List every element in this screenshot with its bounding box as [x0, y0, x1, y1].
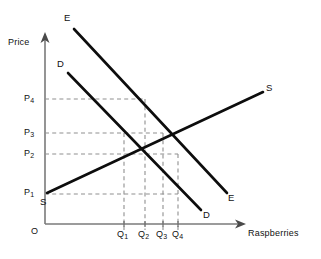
curve-label-s-bottom: S — [40, 196, 47, 207]
y-axis-title: Price — [8, 37, 30, 47]
quantity-tick-q4: Q4 — [172, 229, 183, 240]
price-tick-p4-sub: 4 — [30, 97, 34, 104]
curve-label-e-top: E — [64, 12, 71, 23]
quantity-tick-q1-sub: 1 — [124, 233, 128, 240]
x-axis-title: Raspberries — [248, 228, 299, 238]
quantity-tick-q4-sub: 4 — [179, 233, 183, 240]
quantity-tick-q3: Q3 — [156, 229, 167, 240]
plot-canvas — [0, 0, 321, 259]
quantity-tick-q2-sub: 2 — [145, 233, 149, 240]
price-tick-p1-sub: 1 — [30, 191, 34, 198]
supply-demand-diagram: Price Raspberries O E E D D S S P4 P3 P2… — [0, 0, 321, 259]
curve-label-s-top: S — [266, 82, 273, 93]
curve-label-d-top: D — [57, 58, 64, 69]
price-tick-p2: P2 — [24, 148, 34, 159]
origin-label: O — [31, 226, 38, 236]
curves — [47, 29, 263, 210]
quantity-tick-q1: Q1 — [117, 229, 128, 240]
price-tick-p3: P3 — [24, 127, 34, 138]
supply-curve-S — [47, 92, 263, 193]
quantity-tick-q3-sub: 3 — [163, 233, 167, 240]
price-tick-p1: P1 — [24, 187, 34, 198]
axes — [41, 32, 247, 229]
curve-label-d-bottom: D — [203, 209, 210, 220]
price-tick-p4: P4 — [24, 93, 34, 104]
price-tick-p3-sub: 3 — [30, 131, 34, 138]
price-tick-p2-sub: 2 — [30, 152, 34, 159]
curve-label-e-bottom: E — [228, 192, 235, 203]
quantity-tick-q2: Q2 — [138, 229, 149, 240]
